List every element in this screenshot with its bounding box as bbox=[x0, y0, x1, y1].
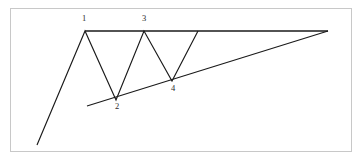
chart-figure: 1 2 3 4 bbox=[0, 0, 362, 162]
pivot-label-3: 3 bbox=[142, 13, 146, 23]
pivot-label-2: 2 bbox=[115, 101, 119, 111]
pivot-label-1: 1 bbox=[82, 13, 86, 23]
figure-frame bbox=[11, 9, 352, 152]
ascending-triangle-chart: 1 2 3 4 bbox=[0, 0, 362, 162]
